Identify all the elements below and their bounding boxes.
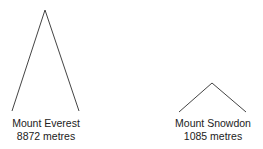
snowdon-height: 1085 metres (158, 130, 263, 143)
snowdon-label: Mount Snowdon 1085 metres (158, 117, 263, 143)
everest-label: Mount Everest 8872 metres (0, 117, 101, 143)
everest-height: 8872 metres (0, 130, 101, 143)
snowdon-triangle (179, 83, 246, 112)
snowdon-name: Mount Snowdon (158, 117, 263, 130)
mountain-comparison-diagram: Mount Everest 8872 metres Mount Snowdon … (0, 0, 263, 149)
everest-name: Mount Everest (0, 117, 101, 130)
everest-triangle (12, 10, 79, 111)
